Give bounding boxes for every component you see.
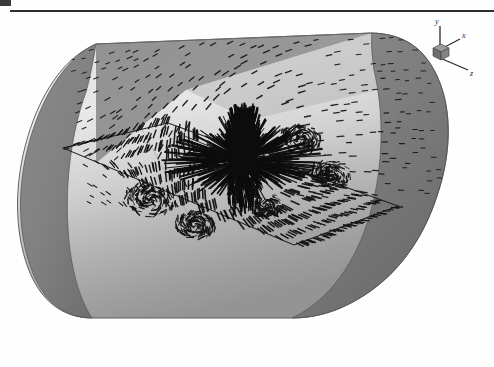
triad-x-label: x	[461, 31, 466, 40]
triad-z-axis	[440, 58, 468, 70]
orientation-axes-indicator: y x z	[433, 17, 474, 78]
triad-y-label: y	[434, 17, 439, 26]
figure-canvas: y x z	[0, 0, 494, 367]
triad-z-label: z	[469, 69, 474, 78]
vector-field-visualization: y x z	[0, 0, 494, 367]
